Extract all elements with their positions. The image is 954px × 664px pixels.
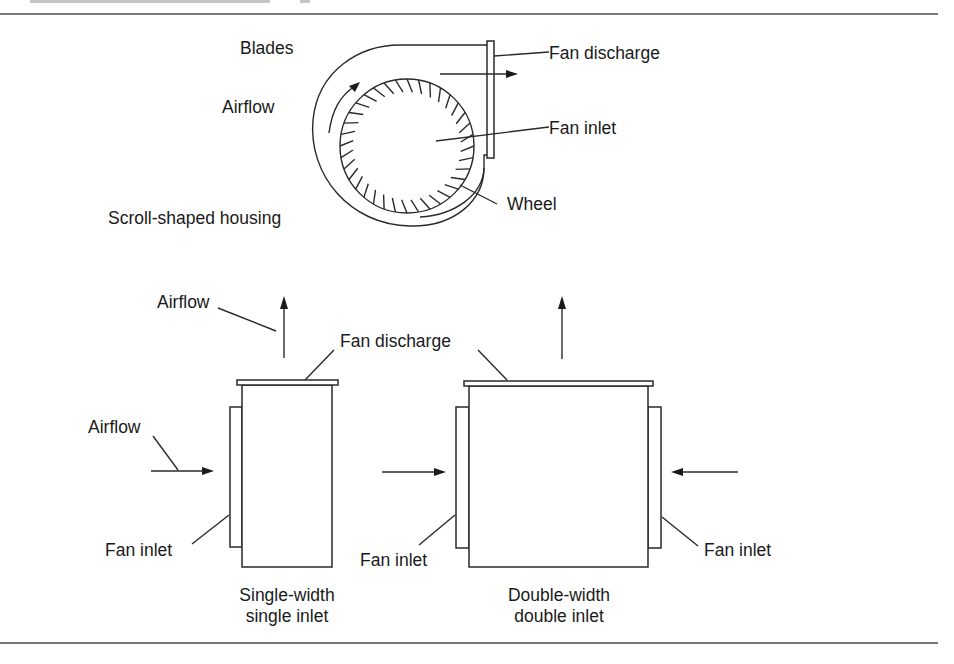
wheel	[340, 79, 474, 213]
fan-body	[469, 386, 648, 567]
blade	[459, 158, 473, 161]
label-airflow-top: Airflow	[157, 292, 210, 312]
blade	[341, 150, 353, 158]
blade	[429, 195, 440, 204]
label-fan-inlet-right: Fan inlet	[704, 540, 771, 560]
label-fan-inlet-left: Fan inlet	[360, 550, 427, 570]
blade	[374, 190, 376, 204]
label-fan-inlet: Fan inlet	[549, 118, 616, 138]
discharge-plate	[464, 381, 653, 386]
blade	[456, 113, 465, 124]
blade	[384, 195, 385, 209]
blade	[395, 80, 403, 92]
blade	[430, 83, 431, 97]
discharge-plate	[487, 41, 494, 158]
caption-line2: double inlet	[514, 606, 604, 626]
label-fan-discharge: Fan discharge	[340, 331, 451, 351]
blade	[341, 131, 355, 134]
blade	[439, 88, 441, 102]
blade	[356, 176, 363, 189]
label-airflow-side: Airflow	[88, 417, 141, 437]
blade	[402, 200, 407, 213]
blade	[344, 123, 358, 124]
label-scroll-housing: Scroll-shaped housing	[108, 208, 281, 228]
arrowhead	[349, 82, 360, 92]
arrowhead	[434, 468, 446, 476]
caption-line2: single inlet	[246, 606, 329, 626]
discharge-plate	[237, 380, 338, 385]
leader-fan-discharge	[494, 52, 549, 56]
blade	[407, 79, 412, 92]
fan-body	[242, 385, 332, 567]
blade	[384, 83, 394, 94]
blade	[340, 141, 353, 146]
blade	[420, 198, 430, 209]
fan-inlet-panel-right	[648, 407, 661, 548]
blade	[419, 80, 422, 94]
fan-inlet-panel	[230, 407, 242, 547]
blade	[437, 191, 450, 198]
blade	[411, 200, 419, 212]
leader-airflow-top	[218, 308, 276, 331]
blade	[356, 103, 370, 107]
leader-fan-discharge	[478, 350, 507, 380]
caption-line1: Double-width	[508, 585, 610, 605]
blade	[344, 159, 355, 169]
blade	[456, 169, 470, 170]
blade	[451, 178, 465, 180]
label-fan-inlet: Fan inlet	[105, 540, 172, 560]
blade	[452, 103, 459, 116]
fan-inlet-panel-left	[456, 407, 469, 548]
blade	[461, 146, 474, 151]
arrowhead	[280, 296, 288, 309]
scroll-housing-outer	[313, 45, 487, 226]
blade	[445, 185, 459, 189]
blade	[374, 88, 385, 97]
blade	[364, 184, 368, 198]
leader-fan-inlet-left	[419, 515, 455, 545]
arrowhead	[202, 467, 214, 475]
single-width-single-inlet-fan: Airflow Airflow Fan discharge Fan inlet …	[88, 292, 451, 626]
label-blades: Blades	[240, 38, 294, 58]
fan-types-diagram: Blades Airflow Scroll-shaped housing Fan…	[0, 0, 954, 664]
arrowhead	[671, 468, 683, 476]
blade	[349, 168, 358, 179]
blade	[364, 95, 377, 102]
caption-line1: Single-width	[239, 585, 334, 605]
leader-fan-inlet	[192, 515, 229, 544]
label-airflow: Airflow	[222, 97, 275, 117]
blade	[392, 198, 395, 212]
leader-fan-discharge	[305, 350, 334, 380]
leader-fan-inlet-right	[662, 517, 698, 546]
arrowhead	[558, 296, 566, 309]
blade	[446, 95, 450, 109]
arrowhead	[506, 70, 518, 78]
blade	[459, 123, 470, 133]
cutoff-caption	[30, 0, 310, 3]
label-wheel: Wheel	[507, 194, 557, 214]
centrifugal-fan-cross-section: Blades Airflow Scroll-shaped housing Fan…	[108, 38, 660, 228]
leader-airflow-side	[153, 436, 178, 470]
blade	[349, 113, 363, 115]
label-fan-discharge: Fan discharge	[549, 43, 660, 63]
